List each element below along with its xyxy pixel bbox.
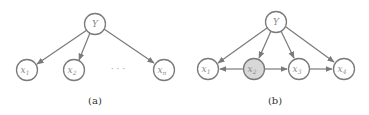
- node-y-b: Y: [266, 12, 287, 33]
- caption-a: (a): [88, 95, 102, 106]
- ellipsis: · · ·: [111, 64, 125, 74]
- caption-b: (b): [268, 95, 282, 106]
- diagram-canvas: Y x1 x2 · · · xn (a) Y: [0, 0, 369, 115]
- edge-y-xn: [104, 29, 154, 63]
- node-y-a: Y: [85, 14, 106, 35]
- edge-y-x2: [79, 33, 90, 60]
- node-subscript: 3: [298, 68, 302, 75]
- node-subscript: 1: [26, 69, 30, 76]
- node-subscript: 1: [207, 68, 211, 75]
- node-label: Y: [92, 19, 99, 29]
- panel-a: Y x1 x2 · · · xn (a): [17, 14, 175, 107]
- node-x1-b: x1: [198, 59, 219, 80]
- node-x2-a: x2: [64, 60, 85, 81]
- node-label: Y: [273, 17, 280, 27]
- edges-b: [218, 27, 334, 69]
- panel-b: Y x1 x2 x3 x4 (b): [198, 12, 355, 107]
- node-x4-b: x4: [334, 59, 355, 80]
- node-x3-b: x3: [289, 59, 310, 80]
- node-x1-a: x1: [17, 60, 38, 81]
- node-subscript: n: [163, 69, 167, 76]
- node-subscript: 2: [252, 68, 257, 75]
- node-subscript: 4: [342, 68, 347, 75]
- edge-y-x3: [281, 31, 294, 58]
- node-subscript: 2: [72, 69, 77, 76]
- node-x2-b-observed: x2: [244, 59, 265, 80]
- edge-y-x2: [259, 31, 271, 58]
- node-xn-a: xn: [154, 60, 175, 81]
